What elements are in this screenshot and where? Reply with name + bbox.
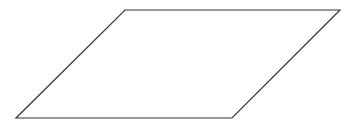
diagram-canvas [0, 0, 353, 124]
parallelogram-shape [16, 10, 340, 118]
